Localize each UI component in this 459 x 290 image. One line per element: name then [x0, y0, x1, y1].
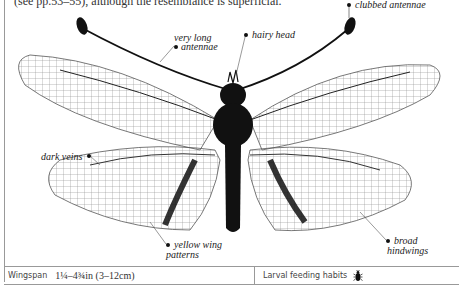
beetle-icon — [353, 270, 363, 282]
book-page: (see pp.53–55), although the resemblance… — [0, 0, 459, 290]
label-clubbed-antennae: clubbed antennae — [355, 0, 426, 10]
label-very-long-antennae-2: antennae — [181, 42, 218, 52]
larval-cell: Larval feeding habits — [255, 267, 459, 284]
label-dot — [87, 154, 91, 158]
label-dot — [244, 33, 248, 37]
label-dot — [386, 239, 390, 243]
info-bar: Wingspan 1¼–4¾in (3–12cm) Larval feeding… — [4, 266, 459, 285]
wingspan-cell: Wingspan 1¼–4¾in (3–12cm) — [4, 267, 255, 284]
larval-feeding-label: Larval feeding habits — [263, 271, 347, 280]
label-yellow-wing-2: patterns — [166, 250, 199, 260]
wingspan-value: 1¼–4¾in (3–12cm) — [47, 270, 134, 281]
wingspan-label: Wingspan — [4, 271, 47, 280]
owlfly-illustration — [0, 0, 459, 266]
label-dot — [174, 45, 178, 49]
label-broad-hindwings-2: hindwings — [387, 246, 428, 256]
label-hairy-head: hairy head — [252, 30, 295, 40]
label-dot — [347, 3, 351, 7]
label-dark-veins: dark veins — [41, 152, 82, 162]
label-dot — [166, 243, 170, 247]
